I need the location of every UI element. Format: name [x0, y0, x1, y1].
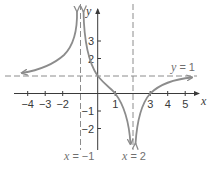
function-graph: −4 −3 −2 1 3 4 5 3 2 −1 −2 x y y = 1 x =… [0, 0, 214, 174]
y-tick-label: −2 [81, 123, 94, 135]
curve-right-branch [136, 78, 193, 145]
x-tick-label: −2 [56, 98, 69, 110]
x-tick-label: −4 [21, 98, 34, 110]
y-tick-label: −1 [81, 105, 94, 117]
x-tick-label: 1 [112, 98, 118, 110]
x-tick-label: 4 [165, 98, 171, 110]
asymptote-eq: = −1 [69, 150, 94, 162]
x-tick-label: −3 [39, 98, 52, 110]
y-axis-label: y [85, 4, 92, 18]
asymptote-eq: = 2 [127, 150, 146, 162]
vertical-asymptote-right-label: x = 2 [121, 149, 146, 163]
asymptote-eq: = 1 [176, 61, 195, 73]
x-tick-label: 3 [147, 98, 153, 110]
y-tick-label: 3 [88, 35, 94, 47]
curve-left-branch [22, 11, 77, 73]
vertical-asymptote-left-label: x = −1 [63, 149, 94, 163]
x-axis-label: x [200, 94, 207, 108]
horizontal-asymptote-label: y = 1 [170, 60, 195, 74]
x-tick-label: 5 [182, 98, 188, 110]
